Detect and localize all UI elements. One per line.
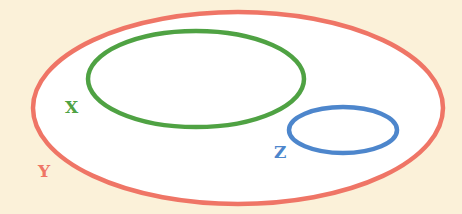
set-x-label: X [65,97,79,117]
venn-diagram: X Y Z [0,0,462,214]
set-y-label: Y [37,161,51,181]
set-y-ellipse [33,12,443,204]
set-z-label: Z [274,142,286,162]
